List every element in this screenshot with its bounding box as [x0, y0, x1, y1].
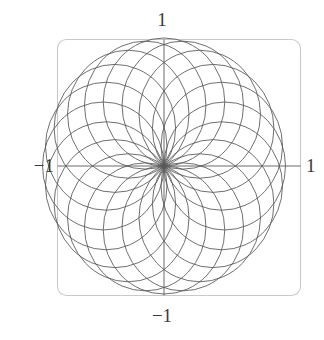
rosette-circle	[152, 140, 274, 268]
rosette-circle	[161, 82, 283, 210]
rosette-circle	[84, 41, 206, 169]
rosette-circle	[139, 154, 260, 282]
rosette-circle	[54, 64, 176, 192]
figure-canvas: 1 −1 −1 1	[0, 0, 324, 340]
rosette-circle	[54, 140, 176, 268]
x-axis-max-tick-label: 1	[306, 156, 324, 175]
rosette-circle	[152, 64, 274, 192]
rosette-circle	[122, 163, 244, 291]
rosette-circle	[161, 122, 283, 250]
y-axis-max-tick-label: 1	[0, 10, 324, 29]
x-axis-min-tick-label: −1	[14, 156, 54, 175]
rosette-circle	[68, 50, 190, 178]
rosette-circle	[45, 122, 166, 250]
rosette-circle	[139, 50, 260, 178]
rosette-circle	[122, 41, 244, 169]
rosette-circle	[68, 154, 190, 282]
rosette-circle	[84, 163, 206, 291]
y-axis-min-tick-label: −1	[0, 306, 324, 325]
rosette-circle	[45, 82, 166, 210]
